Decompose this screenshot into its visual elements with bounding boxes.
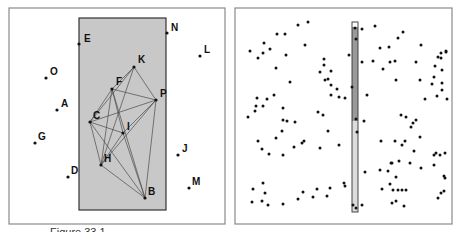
- scatter-point: [400, 114, 403, 117]
- scatter-point: [391, 162, 394, 165]
- point-P: [154, 98, 157, 101]
- scatter-point: [437, 56, 440, 59]
- point-N: [165, 31, 168, 34]
- scatter-point: [444, 152, 447, 155]
- scatter-point: [252, 188, 255, 191]
- scatter-point: [402, 31, 405, 34]
- scatter-point: [324, 79, 327, 82]
- scatter-point: [293, 146, 296, 149]
- scatter-point: [441, 69, 444, 72]
- scatter-point: [356, 131, 359, 134]
- scatter-point: [403, 205, 406, 208]
- scatter-point: [302, 191, 305, 194]
- figure-caption: Figure 33.1: [50, 226, 106, 232]
- scatter-point: [257, 140, 260, 143]
- scatter-point: [361, 61, 364, 64]
- point-label-K: K: [138, 54, 146, 65]
- scatter-point: [440, 57, 443, 60]
- scatter-point: [434, 65, 437, 68]
- scatter-point: [410, 126, 413, 129]
- scatter-point: [317, 111, 320, 114]
- scatter-point: [413, 150, 416, 153]
- scatter-point: [397, 189, 400, 192]
- scatter-point: [281, 130, 284, 133]
- scatter-point: [343, 182, 346, 185]
- scatter-point: [431, 83, 434, 86]
- scatter-point: [443, 190, 446, 193]
- scatter-point: [419, 79, 422, 82]
- point-label-D: D: [71, 165, 78, 176]
- point-L: [198, 54, 201, 57]
- scatter-point: [276, 33, 279, 36]
- point-C: [88, 120, 91, 123]
- scatter-point: [326, 195, 329, 198]
- scatter-point: [415, 119, 418, 122]
- scatter-point: [419, 136, 422, 139]
- scatter-point: [435, 152, 438, 155]
- scatter-point: [352, 204, 355, 207]
- point-label-C: C: [93, 110, 100, 121]
- scatter-point: [330, 94, 333, 97]
- scatter-point: [380, 140, 383, 143]
- scatter-point: [361, 204, 364, 207]
- scatter-point: [404, 140, 407, 143]
- scatter-point: [251, 201, 254, 204]
- scatter-point: [355, 207, 358, 210]
- point-label-A: A: [61, 98, 68, 109]
- scatter-point: [327, 130, 330, 133]
- scatter-point: [366, 94, 369, 97]
- point-label-G: G: [38, 131, 46, 142]
- scatter-point: [275, 67, 278, 70]
- scatter-point: [392, 189, 395, 192]
- scatter-point: [329, 187, 332, 190]
- scatter-point: [381, 188, 384, 191]
- scatter-point: [401, 144, 404, 147]
- scatter-point: [395, 79, 398, 82]
- scatter-point: [394, 60, 397, 63]
- scatter-point: [273, 94, 276, 97]
- scatter-point: [316, 188, 319, 191]
- point-E: [77, 42, 80, 45]
- scatter-point: [249, 50, 252, 53]
- point-M: [187, 186, 190, 189]
- point-label-E: E: [84, 33, 91, 44]
- scatter-point: [304, 44, 307, 47]
- scatter-point: [354, 27, 357, 30]
- scatter-point: [247, 116, 250, 119]
- scatter-point: [355, 118, 358, 121]
- scatter-point: [409, 162, 412, 165]
- point-label-J: J: [182, 143, 188, 154]
- scatter-point: [282, 119, 285, 122]
- scatter-point: [282, 107, 285, 110]
- scatter-point: [372, 60, 375, 63]
- point-label-I: I: [127, 121, 130, 132]
- scatter-point: [446, 98, 449, 101]
- scatter-point: [344, 97, 347, 100]
- scatter-point: [387, 170, 390, 173]
- point-K: [132, 65, 135, 68]
- point-I: [121, 131, 124, 134]
- scatter-point: [319, 71, 322, 74]
- scatter-point: [282, 154, 285, 157]
- left-panel: ENLKOFPACIGJHDMB: [9, 8, 225, 224]
- scatter-point: [389, 183, 392, 186]
- scatter-point: [424, 98, 427, 101]
- point-D: [66, 175, 69, 178]
- scatter-point: [267, 204, 270, 207]
- scatter-point: [355, 38, 358, 41]
- scatter-point: [439, 154, 442, 157]
- scatter-point: [254, 110, 257, 113]
- scatter-point: [395, 176, 398, 179]
- scatter-point: [433, 76, 436, 79]
- scatter-point: [398, 160, 401, 163]
- scatter-point: [256, 97, 259, 100]
- scatter-point: [261, 200, 264, 203]
- scatter-point: [284, 33, 287, 36]
- scatter-point: [440, 192, 443, 195]
- figure-canvas: ENLKOFPACIGJHDMB: [0, 0, 458, 232]
- scatter-point: [363, 120, 366, 123]
- scatter-point: [282, 203, 285, 206]
- scatter-point: [297, 198, 300, 201]
- scatter-point: [255, 105, 258, 108]
- scatter-point: [440, 52, 443, 55]
